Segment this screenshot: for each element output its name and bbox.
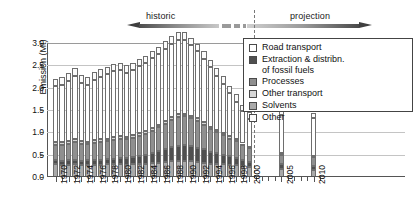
bar-segment	[240, 145, 245, 160]
bar-segment	[240, 111, 245, 143]
bar-1981	[124, 43, 129, 177]
bar-segment	[176, 114, 181, 117]
bar-segment	[118, 70, 123, 136]
bar-segment	[201, 59, 206, 122]
bar-segment	[156, 151, 161, 163]
bar-segment	[214, 68, 219, 76]
bar-1996	[221, 43, 226, 177]
bar-segment	[214, 153, 219, 164]
legend-item-5[interactable]: Other	[249, 112, 408, 123]
x-tick-minor	[268, 177, 269, 181]
x-tick-label: 1982	[136, 165, 146, 184]
bar-1978	[105, 43, 110, 177]
bar-segment	[176, 32, 181, 40]
bar-segment	[92, 72, 97, 80]
bar-1987	[163, 43, 168, 177]
bar-segment	[143, 56, 148, 64]
bar-segment	[66, 141, 71, 144]
bar-1975	[85, 43, 90, 177]
legend-item-0[interactable]: Road transport	[249, 42, 408, 53]
y-tick-label: 0.0	[6, 172, 44, 182]
x-tick-label: 1986	[162, 165, 172, 184]
bar-1983	[137, 43, 142, 177]
legend-swatch-icon	[249, 56, 257, 64]
legend-item-1[interactable]: Extraction & distribn. of fossil fuels	[249, 54, 408, 75]
bar-segment	[72, 139, 77, 142]
bar-segment	[195, 51, 200, 118]
bar-1997	[227, 43, 232, 177]
legend-item-4[interactable]: Solvents	[249, 100, 408, 111]
bar-segment	[53, 79, 58, 87]
bar-segment	[156, 125, 161, 128]
bar-segment	[201, 51, 206, 59]
bar-segment	[72, 142, 77, 160]
x-tick-label: 2000	[252, 165, 262, 184]
bar-segment	[66, 73, 71, 81]
y-tick	[40, 155, 44, 156]
projection-arrow-icon	[247, 22, 372, 29]
bar-segment	[163, 41, 168, 49]
x-tick-major	[133, 177, 134, 182]
legend-swatch-icon	[249, 114, 257, 122]
bar-segment	[150, 131, 155, 153]
x-tick-label: 1992	[201, 165, 211, 184]
x-tick-major	[314, 177, 315, 182]
bar-segment	[118, 63, 123, 71]
bar-segment	[182, 32, 187, 40]
bar-segment	[118, 139, 123, 158]
legend-label: Extraction & distribn. of fossil fuels	[262, 54, 345, 75]
bar-segment	[105, 139, 110, 142]
legend-item-2[interactable]: Processes	[249, 76, 408, 87]
bar-segment	[124, 65, 129, 73]
bar-segment	[111, 71, 116, 137]
bar-segment	[214, 132, 219, 153]
bar-segment	[188, 45, 193, 116]
x-tick-label: 1994	[214, 165, 224, 184]
bar-segment	[208, 127, 213, 129]
bar-segment	[156, 127, 161, 151]
bar-segment	[247, 148, 252, 161]
bar-segment	[118, 158, 123, 164]
x-tick-label: 1970	[59, 165, 69, 184]
bar-1990	[182, 43, 187, 177]
bar-segment	[227, 86, 232, 93]
x-tick-label: 1980	[123, 165, 133, 184]
bar-1974	[79, 43, 84, 177]
bar-segment	[105, 141, 110, 159]
bar-segment	[188, 146, 193, 161]
bar-segment	[201, 149, 206, 162]
bar-segment	[85, 144, 90, 160]
bar-segment	[92, 140, 97, 143]
y-tick-label: 0.5	[6, 150, 44, 160]
historic-arrow-icon	[127, 22, 219, 29]
bar-segment	[163, 121, 168, 124]
legend-swatch-icon	[249, 44, 257, 52]
bar-segment	[105, 159, 110, 164]
timeline-header: historic projection	[0, 0, 419, 34]
bar-segment	[188, 116, 193, 119]
bar-segment	[195, 121, 200, 147]
bar-segment	[201, 125, 206, 150]
legend-swatch-icon	[249, 78, 257, 86]
bar-segment	[105, 74, 110, 138]
bar-segment	[98, 139, 103, 142]
legend-item-3[interactable]: Other transport	[249, 88, 408, 99]
x-tick-label: 1984	[149, 165, 159, 184]
bar-1971	[59, 43, 64, 177]
legend-label: Other transport	[262, 88, 323, 99]
bar-segment	[137, 136, 142, 156]
bar-1993	[201, 43, 206, 177]
bar-segment	[169, 147, 174, 161]
bar-segment	[169, 36, 174, 44]
bar-segment	[111, 137, 116, 140]
x-tick-minor	[307, 177, 308, 181]
bar-segment	[208, 60, 213, 68]
bar-segment	[124, 137, 129, 140]
bar-segment	[85, 85, 90, 142]
bar-segment	[124, 73, 129, 137]
bar-segment	[111, 140, 116, 159]
bar-1998	[234, 43, 239, 177]
bar-segment	[92, 143, 97, 160]
bar-segment	[176, 40, 181, 115]
projection-label: projection	[290, 11, 330, 21]
